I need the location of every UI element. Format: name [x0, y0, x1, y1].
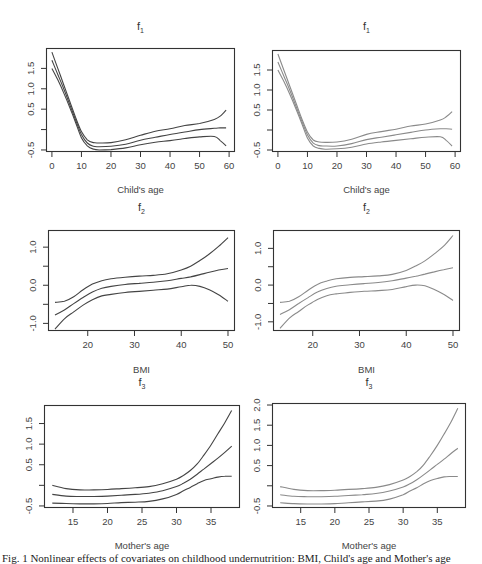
y-tick-label: -0.5 — [23, 498, 34, 514]
x-tick-label: 25 — [364, 516, 375, 527]
y-tick-label: 2.0 — [251, 398, 262, 411]
x-tick-label: 40 — [165, 160, 176, 171]
chart-panel-f3-left: 1520253035-0.50.51.01.5 — [44, 405, 240, 508]
x-axis-label: Child's age — [81, 184, 201, 195]
x-tick-label: 60 — [450, 160, 461, 171]
plot-frame — [273, 404, 466, 508]
figure-caption: Fig. 1 Nonlinear effects of covariates o… — [2, 552, 451, 564]
x-tick-label: 60 — [224, 160, 235, 171]
x-tick-label: 20 — [82, 339, 93, 350]
x-axis-label: Mother's age — [82, 540, 202, 551]
y-tick-label: 1.5 — [25, 62, 36, 75]
x-tick-label: 30 — [354, 339, 365, 350]
curve-upper — [280, 408, 458, 490]
x-tick-label: 30 — [171, 516, 182, 527]
x-tick-label: 30 — [398, 516, 409, 527]
x-tick-label: 30 — [361, 160, 372, 171]
curve-estimate — [278, 62, 452, 146]
x-tick-label: 50 — [420, 160, 431, 171]
y-tick-label: 0.0 — [252, 278, 263, 291]
panel-title: f3 — [112, 376, 172, 390]
curve-lower — [52, 68, 226, 150]
x-tick-label: 40 — [176, 339, 187, 350]
chart-panel-f1-right: 0102030405060-0.50.51.01.5 — [272, 50, 461, 152]
x-tick-label: 10 — [302, 160, 313, 171]
y-tick-label: -0.5 — [251, 498, 262, 514]
x-tick-label: 35 — [432, 516, 443, 527]
y-tick-label: -0.5 — [25, 142, 36, 158]
x-axis-label: Child's age — [307, 184, 427, 195]
x-tick-label: 20 — [332, 160, 343, 171]
chart-panel-f1-left: 0102030405060-0.50.51.01.5 — [46, 48, 235, 152]
panel-title: f1 — [111, 20, 171, 34]
curve-upper — [52, 410, 231, 490]
x-tick-label: 15 — [68, 516, 79, 527]
x-tick-label: 50 — [223, 339, 234, 350]
y-tick-label: 1.0 — [251, 439, 262, 452]
y-tick-label: 1.5 — [23, 417, 34, 430]
x-tick-label: 15 — [295, 516, 306, 527]
x-tick-label: 50 — [194, 160, 205, 171]
x-tick-label: 20 — [102, 516, 113, 527]
x-axis-label: BMI — [307, 364, 427, 375]
curve-lower — [278, 70, 452, 149]
chart-panel-f3-right: 1520253035-0.50.51.01.52.0 — [272, 403, 466, 508]
x-tick-label: 10 — [76, 160, 87, 171]
y-tick-label: -1.0 — [252, 314, 263, 330]
x-tick-label: 0 — [49, 160, 54, 171]
y-tick-label: 1.5 — [251, 419, 262, 432]
panel-title: f1 — [337, 20, 397, 34]
y-tick-label: 1.0 — [251, 83, 262, 96]
y-tick-label: 0.5 — [25, 103, 36, 116]
plot-frame — [49, 231, 235, 331]
y-tick-label: 1.0 — [23, 438, 34, 451]
chart-panel-f2-left: 20304050-1.00.01.0 — [48, 230, 235, 331]
x-axis-label: BMI — [82, 364, 202, 375]
plot-frame — [274, 231, 460, 331]
x-tick-label: 40 — [391, 160, 402, 171]
x-tick-label: 20 — [307, 339, 318, 350]
panel-title: f2 — [112, 201, 172, 215]
x-tick-label: 20 — [330, 516, 341, 527]
y-tick-label: 0.5 — [23, 458, 34, 471]
x-tick-label: 40 — [401, 339, 412, 350]
plot-frame — [45, 406, 240, 508]
x-tick-label: 50 — [448, 339, 459, 350]
y-tick-label: 0.5 — [251, 459, 262, 472]
y-tick-label: 0.5 — [251, 103, 262, 116]
y-tick-label: 1.5 — [251, 63, 262, 76]
curve-upper — [55, 238, 228, 303]
curve-upper — [280, 236, 453, 303]
y-tick-label: 1.0 — [252, 242, 263, 255]
y-tick-label: -0.5 — [251, 142, 262, 158]
x-tick-label: 20 — [106, 160, 117, 171]
x-axis-label: Mother's age — [309, 540, 429, 551]
x-tick-label: 35 — [206, 516, 217, 527]
y-tick-label: 0.0 — [27, 279, 38, 292]
panel-title: f2 — [337, 201, 397, 215]
x-tick-label: 25 — [137, 516, 148, 527]
x-tick-label: 0 — [275, 160, 280, 171]
y-tick-label: -1.0 — [27, 315, 38, 331]
panel-title: f3 — [339, 376, 399, 390]
y-tick-label: 1.0 — [27, 241, 38, 254]
curve-estimate — [52, 60, 226, 147]
x-tick-label: 30 — [129, 339, 140, 350]
x-tick-label: 30 — [135, 160, 146, 171]
chart-panel-f2-right: 20304050-1.00.01.0 — [273, 230, 460, 331]
y-tick-label: 1.0 — [25, 82, 36, 95]
